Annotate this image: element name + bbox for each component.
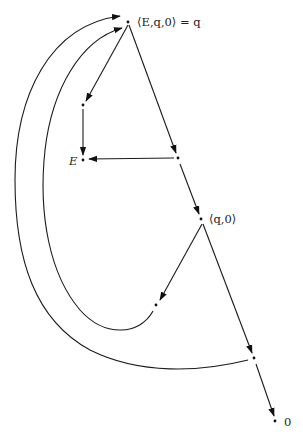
edge-mid-to-q0 — [180, 164, 199, 214]
node-left — [82, 104, 85, 107]
node-top — [127, 21, 130, 24]
edge-lowleft-to-top-curve — [43, 28, 153, 330]
label-E: E — [68, 154, 78, 168]
node-lowright — [253, 357, 256, 360]
label-zero: 0 — [284, 415, 291, 429]
node-mid — [177, 157, 180, 160]
edge-lowright-to-top-curve — [15, 16, 248, 369]
node-E — [82, 159, 85, 162]
edge-mid-to-E — [89, 158, 174, 159]
label-q0: ⟨q,0⟩ — [209, 212, 236, 226]
edge-lowright-to-zero — [256, 364, 274, 416]
node-q0 — [200, 218, 203, 221]
edge-q0-to-lowleft — [160, 224, 202, 300]
node-zero — [274, 420, 277, 423]
edge-q0-to-lowright — [203, 224, 252, 353]
label-top: ⟨E,q,0⟩ = q — [137, 15, 201, 29]
graph-diagram: ⟨E,q,0⟩ = q E ⟨q,0⟩ 0 — [0, 0, 303, 440]
node-lowleft — [155, 304, 158, 307]
edge-top-to-mid — [129, 25, 176, 153]
edge-top-to-left — [86, 25, 128, 101]
